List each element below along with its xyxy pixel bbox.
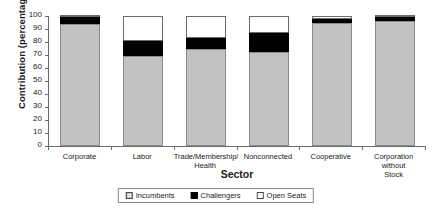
bar-slot — [175, 16, 238, 146]
legend-item-label: Incumbents — [136, 191, 175, 200]
bar-slot — [300, 16, 363, 146]
y-axis-tick-mark — [45, 29, 48, 30]
y-axis-tick-mark — [45, 107, 48, 108]
y-axis-tick-label: 70 — [20, 49, 42, 58]
bar-segment-openseats[interactable] — [186, 16, 226, 38]
legend-item-label: Challengers — [201, 191, 241, 200]
bar-segment-openseats[interactable] — [60, 15, 100, 17]
y-axis-tick-label: 10 — [20, 127, 42, 136]
y-axis-tick-label: 50 — [20, 75, 42, 84]
y-axis-tick-label: 80 — [20, 36, 42, 45]
y-axis-tick-label: 40 — [20, 88, 42, 97]
bar-slot — [49, 16, 112, 146]
x-axis-tick-mark — [362, 146, 363, 150]
legend-item[interactable]: Incumbents — [126, 191, 175, 200]
legend-item[interactable]: Challengers — [191, 191, 241, 200]
x-axis-tick-mark — [299, 146, 300, 150]
x-axis-tick-mark — [48, 146, 49, 150]
bar-segment-challengers[interactable] — [312, 19, 352, 23]
y-axis-tick-mark — [45, 81, 48, 82]
y-axis-tick-label: 100 — [20, 10, 42, 19]
bar-group — [49, 16, 426, 146]
x-axis-tick-mark — [425, 146, 426, 150]
bar-segment-challengers[interactable] — [249, 33, 289, 53]
x-axis-category-label: Corporate — [48, 152, 111, 161]
bar-segment-incumbents[interactable] — [249, 52, 289, 146]
bar-slot — [238, 16, 301, 146]
bar-segment-incumbents[interactable] — [123, 56, 163, 146]
chart-legend: IncumbentsChallengersOpen Seats — [118, 188, 314, 203]
stacked-bar[interactable] — [312, 16, 352, 146]
grey-swatch — [126, 192, 133, 199]
bar-segment-openseats[interactable] — [249, 16, 289, 33]
x-axis-category-label: Labor — [111, 152, 174, 161]
bar-segment-challengers[interactable] — [123, 41, 163, 57]
bar-segment-incumbents[interactable] — [375, 21, 415, 146]
y-axis-tick-mark — [45, 55, 48, 56]
x-axis-tick-mark — [237, 146, 238, 150]
bar-slot — [363, 16, 426, 146]
bar-segment-challengers[interactable] — [186, 38, 226, 48]
legend-item-label: Open Seats — [267, 191, 307, 200]
bar-slot — [112, 16, 175, 146]
stacked-bar[interactable] — [186, 16, 226, 146]
y-axis-tick-label: 0 — [20, 140, 42, 149]
y-axis-tick-label: 20 — [20, 114, 42, 123]
y-axis-tick-mark — [45, 94, 48, 95]
white-swatch — [257, 192, 264, 199]
x-axis-category-label: Nonconnected — [237, 152, 300, 161]
stacked-bar[interactable] — [60, 16, 100, 146]
y-axis-tick-mark — [45, 68, 48, 69]
bar-segment-incumbents[interactable] — [186, 49, 226, 147]
bar-segment-openseats[interactable] — [123, 16, 163, 41]
bar-segment-challengers[interactable] — [60, 17, 100, 24]
bar-segment-incumbents[interactable] — [60, 24, 100, 146]
bar-segment-openseats[interactable] — [375, 15, 415, 17]
black-swatch — [191, 192, 198, 199]
x-axis-tick-mark — [111, 146, 112, 150]
y-axis-tick-mark — [45, 120, 48, 121]
y-axis-tick-label: 90 — [20, 23, 42, 32]
stacked-bar-chart: Contribution (percentage) 10090807060504… — [0, 0, 432, 210]
y-axis-tick-label: 30 — [20, 101, 42, 110]
bar-segment-incumbents[interactable] — [312, 23, 352, 147]
bar-segment-openseats[interactable] — [312, 16, 352, 19]
stacked-bar[interactable] — [123, 16, 163, 146]
stacked-bar[interactable] — [375, 16, 415, 146]
bar-segment-challengers[interactable] — [375, 17, 415, 21]
y-axis-tick-mark — [45, 133, 48, 134]
x-axis-tick-mark — [174, 146, 175, 150]
y-axis-tick-mark — [45, 16, 48, 17]
y-axis-tick-mark — [45, 42, 48, 43]
legend-item[interactable]: Open Seats — [257, 191, 307, 200]
y-axis-tick-label: 60 — [20, 62, 42, 71]
stacked-bar[interactable] — [249, 16, 289, 146]
x-axis-category-label: Cooperative — [299, 152, 362, 161]
x-axis-title: Sector — [48, 168, 426, 180]
plot-area: 1009080706050403020100 CorporateLaborTra… — [48, 16, 426, 147]
